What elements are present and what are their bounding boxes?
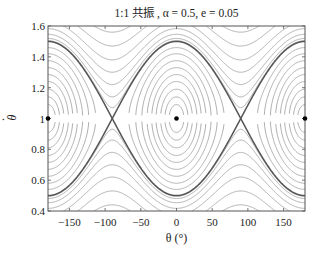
y-tick-label: 0.4 [31, 205, 45, 217]
x-tick-label: 0 [174, 216, 180, 228]
x-tick-label: −50 [132, 216, 150, 228]
x-tick-label: 150 [275, 216, 292, 228]
y-tick-label: 1.4 [31, 51, 45, 63]
y-tick-label: 1.2 [31, 82, 45, 94]
equilibrium-point [46, 116, 51, 121]
equilibrium-point [174, 116, 179, 121]
equilibrium-point [303, 116, 308, 121]
y-tick-label: 1 [40, 113, 46, 125]
x-tick-label: −150 [58, 216, 81, 228]
y-tick-label: 0.6 [31, 174, 45, 186]
x-tick-label: −100 [94, 216, 117, 228]
y-tick-label: 0.8 [31, 143, 45, 155]
x-tick-label: 50 [207, 216, 219, 228]
phase-portrait-plot: −150−100−500501001500.40.60.811.21.41.6 [0, 0, 318, 255]
x-tick-label: 100 [240, 216, 257, 228]
equilibrium-points [46, 116, 308, 121]
y-tick-label: 1.6 [31, 20, 45, 32]
